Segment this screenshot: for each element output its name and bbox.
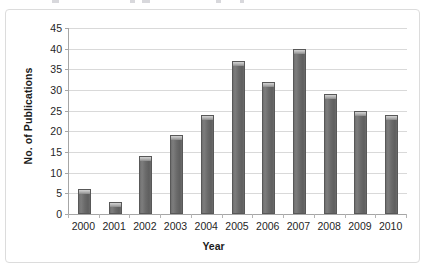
- y-axis-tick: [65, 173, 69, 174]
- x-axis-tick: [252, 214, 253, 218]
- bar: [262, 82, 275, 214]
- y-axis-tick-label: 30: [50, 84, 62, 96]
- bar: [78, 189, 91, 214]
- x-axis-tick-label: 2003: [164, 220, 187, 232]
- chart-panel: No. of Publications 051015202530354045 2…: [5, 9, 420, 263]
- y-axis-title: No. of Publications: [22, 56, 34, 176]
- x-axis-tick: [191, 214, 192, 218]
- bar: [170, 135, 183, 214]
- x-axis-tick: [406, 214, 407, 218]
- x-axis-tick-label: 2008: [317, 220, 340, 232]
- x-axis-tick-label: 2002: [133, 220, 156, 232]
- x-axis-tick: [314, 214, 315, 218]
- y-axis-tick-label: 10: [50, 167, 62, 179]
- y-axis-tick-label: 5: [56, 187, 62, 199]
- y-axis-tick: [65, 90, 69, 91]
- y-axis-tick-label: 25: [50, 105, 62, 117]
- bar: [293, 49, 306, 214]
- x-axis-tick-label: 2006: [256, 220, 279, 232]
- bar: [324, 94, 337, 214]
- x-axis-title: Year: [6, 240, 421, 252]
- y-axis-tick-label: 45: [50, 22, 62, 34]
- x-axis-tick: [160, 214, 161, 218]
- y-axis-tick-label: 15: [50, 146, 62, 158]
- y-axis-tick: [65, 193, 69, 194]
- bar: [109, 202, 122, 214]
- y-axis-tick: [65, 28, 69, 29]
- plot-area: 051015202530354045: [68, 28, 406, 214]
- x-axis-tick-label: 2010: [379, 220, 402, 232]
- x-axis-tick: [375, 214, 376, 218]
- bar: [354, 111, 367, 214]
- gridline: [69, 49, 407, 50]
- y-axis-tick: [65, 111, 69, 112]
- bar: [232, 61, 245, 214]
- x-axis-tick: [283, 214, 284, 218]
- x-axis-tick-label: 2001: [102, 220, 125, 232]
- x-axis-tick-label: 2004: [195, 220, 218, 232]
- gridline: [69, 28, 407, 29]
- y-axis-tick: [65, 69, 69, 70]
- bar: [201, 115, 214, 214]
- x-axis-tick: [129, 214, 130, 218]
- bar: [139, 156, 152, 214]
- y-axis-tick-label: 35: [50, 63, 62, 75]
- x-axis-tick: [222, 214, 223, 218]
- x-axis-tick-label: 2000: [72, 220, 95, 232]
- y-axis-tick: [65, 152, 69, 153]
- cropped-caption-remnant: [0, 0, 427, 5]
- y-axis-tick-label: 20: [50, 125, 62, 137]
- x-axis-line: [68, 214, 406, 215]
- bar: [385, 115, 398, 214]
- y-axis-tick-label: 40: [50, 43, 62, 55]
- chart-canvas: No. of Publications 051015202530354045 2…: [6, 10, 421, 264]
- x-axis-tick: [345, 214, 346, 218]
- y-axis-tick-label: 0: [56, 208, 62, 220]
- y-axis-tick: [65, 131, 69, 132]
- x-axis-tick: [99, 214, 100, 218]
- x-axis-tick-label: 2007: [287, 220, 310, 232]
- y-axis-tick: [65, 49, 69, 50]
- x-axis-tick-label: 2009: [348, 220, 371, 232]
- x-axis-tick-label: 2005: [225, 220, 248, 232]
- x-axis-tick: [68, 214, 69, 218]
